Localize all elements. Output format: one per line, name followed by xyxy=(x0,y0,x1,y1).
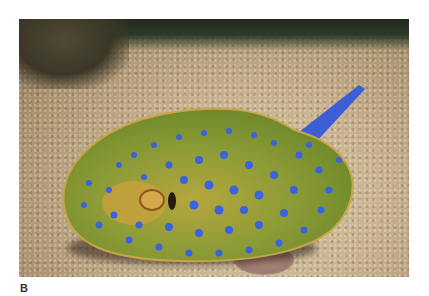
stingray-photo xyxy=(19,19,409,277)
figure-label: B xyxy=(20,282,28,294)
coral xyxy=(19,19,129,89)
stingray xyxy=(59,85,369,263)
